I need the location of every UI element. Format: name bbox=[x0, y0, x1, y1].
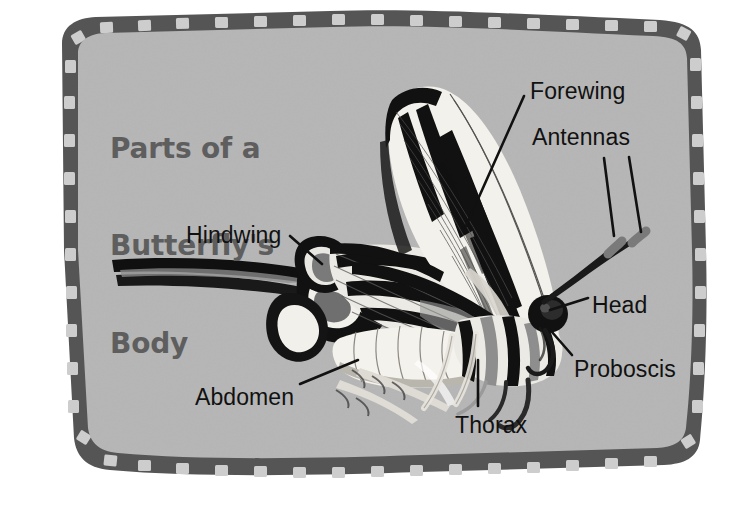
poster-canvas: Parts of a Butterfly's Body Forewing Ant… bbox=[0, 0, 755, 512]
poster-panel bbox=[60, 10, 700, 460]
butterfly-diagram-svg bbox=[0, 0, 755, 512]
